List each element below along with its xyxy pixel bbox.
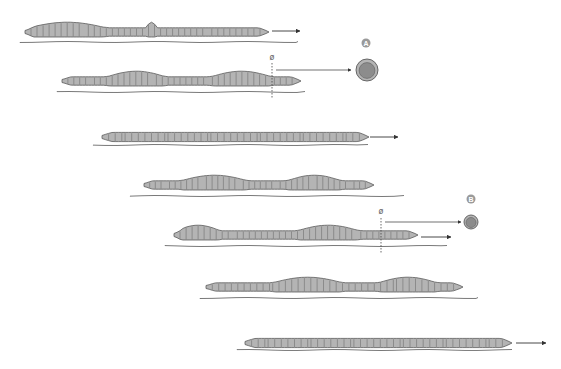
diameter-symbol: ø xyxy=(270,53,275,62)
worm-stage-4 xyxy=(130,175,404,196)
diameter-symbol: ø xyxy=(379,207,384,216)
cross-section-inner xyxy=(466,217,476,227)
locomotion-diagram: øAøB xyxy=(0,0,561,369)
worm-stage-6 xyxy=(200,277,478,298)
section-badge-label: A xyxy=(363,40,368,47)
ground-line xyxy=(20,42,298,43)
cross-section-a: øA xyxy=(270,39,378,100)
ground-line xyxy=(237,350,512,351)
worm-stage-7 xyxy=(237,338,546,350)
worms-layer xyxy=(20,22,546,350)
worm-body xyxy=(206,277,463,292)
ground-line xyxy=(57,92,305,93)
cross-section-inner xyxy=(359,63,375,79)
ground-line xyxy=(165,246,447,247)
worm-body xyxy=(245,338,512,347)
worm-stage-5 xyxy=(165,225,451,246)
worm-body xyxy=(25,22,269,37)
section-badge-label: B xyxy=(468,196,473,203)
worm-stage-1 xyxy=(20,22,300,42)
cross-section-b: øB xyxy=(379,195,478,254)
ground-line xyxy=(130,196,404,197)
worm-stage-3 xyxy=(93,132,398,145)
ground-line xyxy=(200,298,478,299)
worm-stage-2 xyxy=(57,71,305,92)
ground-line xyxy=(93,145,368,146)
worm-body xyxy=(102,132,369,141)
worm-body xyxy=(62,71,301,86)
